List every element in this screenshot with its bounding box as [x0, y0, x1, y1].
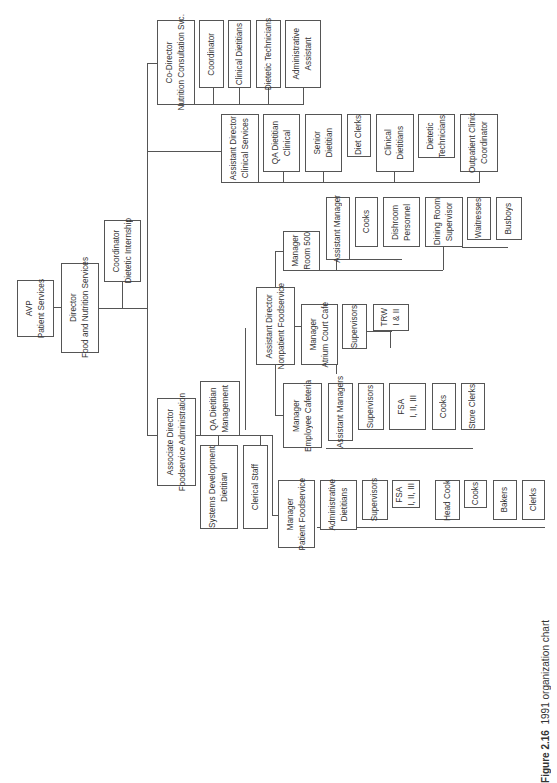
node-senior-dietitian: Senior Dietitian [305, 114, 342, 172]
node-manager-patient-foodservice: Manager Patient Foodservice [278, 480, 315, 548]
connector [99, 308, 147, 309]
node-ncs-coordinator: Coordinator [199, 20, 224, 88]
connector [218, 435, 219, 445]
node-codirector-ncs: Co-Director Nutrition Consultation Svc. [157, 20, 195, 105]
node-cs-dietetic-technicians: Dietetic Technicians [418, 114, 455, 158]
node-ad-nonpatient: Assistant Director Nonpatient Foodservic… [256, 287, 295, 365]
node-diet-clerks: Diet Clerks [347, 114, 371, 157]
node-atrium-supervisors: Supervisors [342, 304, 367, 349]
node-pat-head-cook: Head Cook [435, 480, 460, 520]
connector [147, 63, 148, 435]
connector [194, 104, 304, 105]
node-atrium-trw: TRW I & II [373, 304, 409, 331]
node-emp-fsa: FSA I, II, III [389, 383, 426, 430]
node-outpatient-coordinator: Outpatient Clinic Coordinator [460, 114, 498, 172]
node-pat-admin-dietitians: Administrative Dietitians [320, 480, 357, 530]
node-pat-clerks: Clerks [522, 480, 545, 520]
connector [336, 364, 337, 374]
connector [303, 88, 304, 104]
node-ncs-clinical-dietitians: Clinical Dietitians [228, 20, 251, 88]
node-emp-cooks: Cooks [432, 383, 456, 430]
node-r500-busboys: Busboys [496, 197, 522, 240]
connector [258, 182, 480, 183]
node-r500-dishroom: Dishroom Personnel [383, 197, 420, 247]
connector [462, 247, 508, 248]
connector [275, 251, 283, 252]
connector [394, 172, 395, 182]
node-qa-management: QA Dietitian Management [200, 381, 240, 436]
connector [349, 259, 402, 260]
connector [283, 172, 284, 182]
connector [326, 448, 473, 449]
node-avp: AVP Patient Services [17, 280, 54, 337]
node-manager-atrium: Manager Atrium Court Cafe [301, 304, 338, 365]
node-manager-employee-cafeteria: Manager Employee Cafeteria [283, 383, 322, 448]
connector [275, 251, 276, 287]
node-cs-clinical-dietitians: Clinical Dietitians [376, 114, 414, 172]
node-r500-assistant-manager: Assistant Manager [326, 197, 350, 260]
node-pat-supervisors: Supervisors [362, 480, 388, 520]
figure-caption: Figure 2.16 1991 organization chart [540, 620, 551, 783]
connector [318, 270, 443, 271]
connector [443, 246, 444, 270]
connector [268, 88, 269, 104]
node-systems-development: Systems Development Dietitian [200, 445, 238, 529]
connector [53, 307, 61, 308]
connector [275, 415, 283, 416]
node-qa-clinical: QA Dietitian Clinical [263, 114, 300, 172]
node-ncs-admin-assistant: Administrative Assistant [285, 20, 321, 88]
node-manager-room-500: Manager Room 500 [283, 231, 320, 271]
connector [147, 63, 157, 64]
connector [147, 435, 157, 436]
connector [367, 331, 392, 332]
connector [272, 435, 273, 515]
connector [275, 365, 276, 415]
connector [390, 331, 391, 348]
node-r500-waitresses: Waitresses [467, 197, 491, 240]
node-ad-clinical: Assistant Director Clinical Services [221, 114, 259, 183]
connector [260, 435, 261, 445]
node-associate-director: Associate Director Foodservice Administr… [157, 398, 196, 486]
connector [122, 281, 123, 308]
node-emp-store-clerks: Store Clerks [461, 383, 485, 430]
node-emp-assistant-managers: Assistant Managers [328, 383, 353, 441]
node-pat-cooks: Cooks [464, 480, 487, 508]
connector [239, 88, 240, 104]
node-coordinator-internship: Coordinator Dietetic Internship [104, 220, 141, 282]
node-r500-dining-supervisor: Dining Room Supervisor [425, 197, 463, 247]
node-clerical-staff: Clerical Staff [243, 445, 268, 529]
node-ncs-dietetic-technicians: Dietetic Technicians [256, 20, 281, 88]
node-pat-bakers: Bakers [493, 480, 517, 520]
node-r500-cooks: Cooks [355, 197, 378, 247]
node-director: Director Food and Nutrition Services [61, 263, 99, 353]
connector [323, 172, 324, 182]
connector [147, 151, 221, 152]
node-emp-supervisors: Supervisors [358, 383, 384, 430]
node-pat-fsa: FSA I, II, III [392, 480, 420, 508]
connector [479, 172, 480, 182]
connector [245, 328, 246, 430]
connector [213, 88, 214, 104]
